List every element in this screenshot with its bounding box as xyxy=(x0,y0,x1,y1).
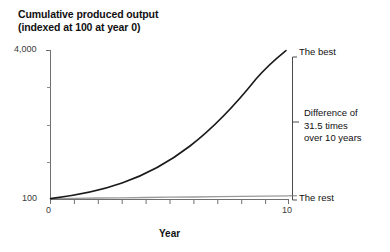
series-label-the-rest: The rest xyxy=(299,192,334,205)
series-label-the-best: The best xyxy=(299,46,336,59)
difference-annotation-line-3: over 10 years xyxy=(304,132,362,145)
y-axis-label-bottom: 100 xyxy=(22,193,37,203)
x-axis-ticks xyxy=(51,200,289,205)
series-line-the-best xyxy=(51,51,287,199)
difference-bracket xyxy=(293,57,300,200)
difference-annotation: Difference of 31.5 times over 10 years xyxy=(304,107,362,145)
x-axis-label-end: 10 xyxy=(282,205,292,215)
chart-container: Cumulative produced output (indexed at 1… xyxy=(0,0,390,252)
difference-annotation-line-1: Difference of xyxy=(304,107,362,120)
x-axis-title: Year xyxy=(159,228,180,239)
y-axis-label-top: 4,000 xyxy=(14,44,37,54)
difference-annotation-line-2: 31.5 times xyxy=(304,120,362,133)
series-line-the-rest xyxy=(51,196,289,199)
x-axis-label-start: 0 xyxy=(46,205,51,215)
y-axis-ticks xyxy=(47,88,51,163)
